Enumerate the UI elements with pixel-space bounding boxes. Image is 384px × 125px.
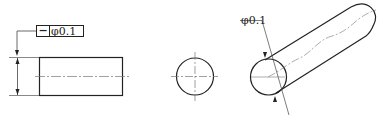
- tolerance-value: φ0.1: [51, 26, 76, 37]
- front-view: [9, 58, 130, 96]
- isometric-tolerance-label: φ0.1: [241, 15, 266, 26]
- leader-line: [15, 31, 36, 56]
- drawing-canvas: [0, 0, 384, 125]
- straightness-symbol: −: [37, 26, 49, 36]
- side-view: [171, 52, 218, 101]
